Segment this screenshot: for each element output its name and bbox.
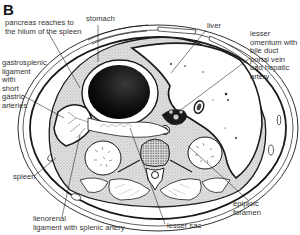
label-liver: liver bbox=[207, 22, 221, 31]
left-kidney bbox=[85, 141, 121, 175]
label-spleen: spleen bbox=[13, 173, 35, 182]
label-gastrosplenic-ligament: gastrosplenic ligament with short gastri… bbox=[2, 59, 47, 111]
stomach-lumen bbox=[88, 65, 150, 119]
label-pancreas: pancreas reaches to the hilum of the spl… bbox=[5, 19, 81, 36]
right-kidney bbox=[188, 137, 222, 169]
label-epiploic-foramen: epiploic foramen bbox=[233, 200, 261, 217]
label-lesser-sac: lesser sac bbox=[167, 222, 201, 231]
label-stomach: stomach bbox=[86, 15, 115, 24]
label-lienorenal-ligament: lienorenal ligament with splenic artery bbox=[33, 215, 125, 232]
label-lesser-omentum: lesser omentum with bile duct portal vei… bbox=[250, 30, 297, 82]
